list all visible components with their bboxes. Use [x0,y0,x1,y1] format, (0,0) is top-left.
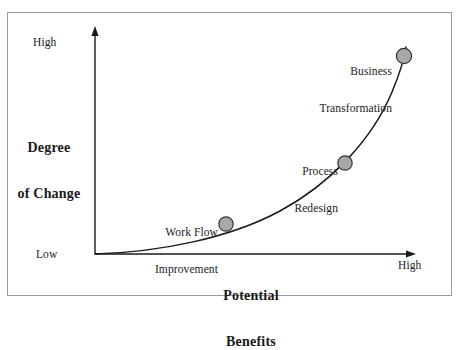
data-point-business-transformation[interactable] [396,48,411,63]
annotation-process-redesign-line-1: Process [258,165,338,177]
y-axis-title: Degree of Change [10,110,88,231]
annotation-work-flow-improvement-line-2: Improvement [136,263,218,275]
annotation-business-transformation-line-1: Business [300,65,392,77]
x-axis-high-tick-label: High [398,259,421,271]
annotation-work-flow-improvement-line-1: Work Flow [136,226,218,238]
data-point-process-redesign[interactable] [338,156,352,170]
x-axis-title-line-2: Benefits [196,334,306,349]
y-axis-high-tick-label: High [33,36,56,48]
y-axis-title-line-2: of Change [10,186,88,201]
annotation-business-transformation-line-2: Transformation [300,102,392,114]
annotation-process-redesign: Process Redesign [258,140,338,239]
y-axis-title-line-1: Degree [10,140,88,155]
data-point-workflow-improvement[interactable] [219,217,233,231]
annotation-work-flow-improvement: Work Flow Improvement [136,201,218,300]
y-axis-low-tick-label: Low [36,248,57,260]
annotation-process-redesign-line-2: Redesign [258,202,338,214]
annotation-business-transformation: Business Transformation [300,40,392,139]
y-axis [91,26,98,254]
